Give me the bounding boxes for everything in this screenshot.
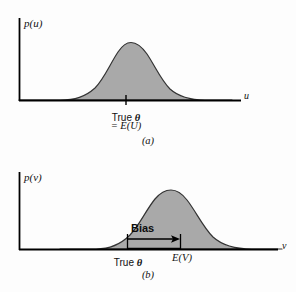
panel-b-theta-symbol: θ xyxy=(137,257,142,268)
panel-b-caption: (b) xyxy=(142,270,154,281)
panel-a-y-axis-label: p(u) xyxy=(24,18,42,29)
panel-a-density-curve xyxy=(19,43,232,101)
panel-b-y-axis-label: p(v) xyxy=(24,172,42,183)
panel-a-x-axis-label: u xyxy=(244,91,249,101)
panel-b-true-theta-label: True θ xyxy=(114,253,142,269)
panel-b-true-text: True xyxy=(114,257,137,268)
panel-b-x-axis-label: v xyxy=(282,241,286,251)
panel-b-density-curve xyxy=(60,190,282,249)
figure-container: p(u) u True θ = E(U) (a) xyxy=(0,0,296,292)
panel-a-caption: (a) xyxy=(142,136,154,147)
panel-a-plot xyxy=(0,0,296,146)
panel-b-bias-label: Bias xyxy=(131,223,154,234)
panel-b: p(v) v Bias True θ E(V) (b) xyxy=(0,146,296,292)
panel-a-mean-label-line2: = E(U) xyxy=(111,121,142,132)
panel-a: p(u) u True θ = E(U) (a) xyxy=(0,0,296,146)
panel-b-expectation-label: E(V) xyxy=(172,253,192,264)
